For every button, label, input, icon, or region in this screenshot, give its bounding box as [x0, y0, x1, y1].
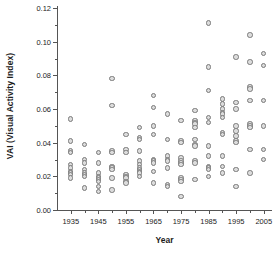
y-tick-minor	[55, 193, 58, 194]
data-point	[165, 158, 170, 163]
data-point	[165, 111, 170, 116]
data-point	[192, 177, 197, 182]
y-tick-minor	[55, 92, 58, 93]
data-point	[137, 174, 142, 179]
x-tick-minor	[85, 210, 86, 213]
y-axis-line	[57, 6, 58, 210]
data-point	[151, 93, 156, 98]
y-tick-major	[53, 42, 57, 43]
data-point	[233, 100, 238, 105]
data-point	[165, 137, 170, 142]
y-tick-label: 0.06	[36, 105, 51, 114]
data-point	[220, 153, 225, 158]
data-point	[96, 189, 101, 194]
y-tick-label: 0.08	[36, 71, 51, 80]
y-tick-minor	[55, 25, 58, 26]
x-tick-label: 1975	[173, 217, 190, 226]
x-axis-line	[57, 210, 272, 211]
data-point	[178, 194, 183, 199]
data-point	[137, 148, 142, 153]
y-tick-label: 0.12	[36, 4, 51, 13]
data-point	[82, 185, 87, 190]
data-point	[206, 167, 211, 172]
y-tick-label: 0.04	[36, 138, 51, 147]
data-point	[151, 160, 156, 165]
data-point	[247, 86, 252, 91]
data-point	[206, 120, 211, 125]
y-tick-minor	[55, 160, 58, 161]
data-point	[109, 103, 114, 108]
data-point	[109, 175, 114, 180]
data-point	[82, 142, 87, 147]
data-point	[206, 64, 211, 69]
data-point	[206, 153, 211, 158]
y-tick-minor	[55, 126, 58, 127]
x-axis-label: Year	[57, 235, 272, 245]
data-point	[233, 106, 238, 111]
x-tick-major	[126, 210, 127, 214]
y-tick-major	[53, 143, 57, 144]
data-point	[123, 132, 128, 137]
scatter-plot-figure: VAI (Visual Activity Index) 0.000.020.04…	[0, 0, 279, 255]
data-point	[178, 140, 183, 145]
data-point	[192, 108, 197, 113]
data-point	[192, 125, 197, 130]
y-tick-label: 0.02	[36, 172, 51, 181]
data-point	[109, 187, 114, 192]
data-point	[109, 76, 114, 81]
data-point	[96, 160, 101, 165]
x-tick-major	[98, 210, 99, 214]
data-point	[96, 150, 101, 155]
data-point	[206, 88, 211, 93]
x-tick-minor	[112, 210, 113, 213]
y-tick-label: 0.10	[36, 37, 51, 46]
x-tick-minor	[167, 210, 168, 213]
data-point	[123, 150, 128, 155]
data-point	[206, 20, 211, 25]
y-tick-major	[53, 75, 57, 76]
data-point	[82, 174, 87, 179]
data-point	[151, 123, 156, 128]
data-point	[68, 175, 73, 180]
x-tick-major	[153, 210, 154, 214]
y-tick-major	[53, 109, 57, 110]
data-point	[192, 143, 197, 148]
y-tick-major	[53, 8, 57, 9]
data-point	[247, 59, 252, 64]
data-point	[261, 123, 266, 128]
data-point	[109, 150, 114, 155]
data-point	[261, 98, 266, 103]
data-point	[165, 165, 170, 170]
data-point	[82, 160, 87, 165]
data-point	[261, 51, 266, 56]
y-tick-major	[53, 210, 57, 211]
data-point	[261, 157, 266, 162]
x-tick-major	[71, 210, 72, 214]
x-tick-label: 2005	[255, 217, 272, 226]
x-tick-minor	[222, 210, 223, 213]
x-tick-major	[264, 210, 265, 214]
plot-area: 0.000.020.040.060.080.100.12 19351945195…	[57, 8, 272, 210]
x-tick-minor	[140, 210, 141, 213]
x-tick-minor	[250, 210, 251, 213]
data-point	[233, 184, 238, 189]
y-axis-label: VAI (Visual Activity Index)	[0, 0, 20, 212]
x-tick-major	[236, 210, 237, 214]
data-point	[261, 63, 266, 68]
data-point	[233, 167, 238, 172]
x-tick-label: 1965	[145, 217, 162, 226]
x-tick-label: 1995	[228, 217, 245, 226]
data-point	[247, 147, 252, 152]
data-point	[123, 180, 128, 185]
data-point	[151, 132, 156, 137]
x-tick-label: 1945	[90, 217, 107, 226]
x-tick-major	[209, 210, 210, 214]
data-point	[151, 180, 156, 185]
data-point	[206, 143, 211, 148]
data-point	[151, 169, 156, 174]
data-point	[109, 167, 114, 172]
data-point	[247, 32, 252, 37]
y-tick-label: 0.00	[36, 206, 51, 215]
x-tick-label: 1985	[200, 217, 217, 226]
data-point	[261, 147, 266, 152]
